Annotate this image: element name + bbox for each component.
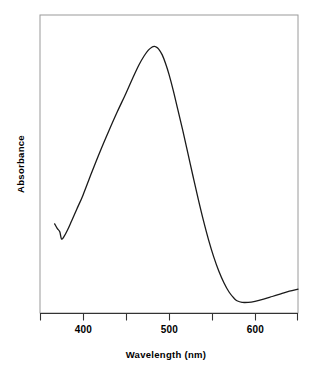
y-axis-title: Absorbance: [15, 135, 26, 193]
x-tick-label-500: 500: [161, 324, 179, 335]
figure-container: 400 500 600 Wavelength (nm) Absorbance: [0, 0, 322, 379]
plot-area-background: [40, 15, 298, 313]
x-tick-label-600: 600: [247, 324, 265, 335]
x-axis-title: Wavelength (nm): [126, 349, 207, 360]
x-axis-ticks: [41, 314, 298, 321]
spectrum-chart: 400 500 600 Wavelength (nm) Absorbance: [0, 0, 322, 379]
x-tick-label-400: 400: [75, 324, 93, 335]
